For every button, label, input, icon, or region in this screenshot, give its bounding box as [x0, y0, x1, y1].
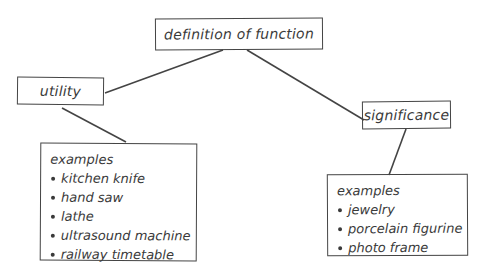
significance-examples-box: examples jewelry porcelain figurine phot…: [327, 174, 468, 257]
example-text: railway timetable: [61, 245, 174, 265]
example-text: ultrasound machine: [61, 226, 191, 246]
examples-heading: examples: [337, 181, 467, 201]
examples-list: jewelry porcelain figurine photo frame: [337, 200, 467, 258]
node-significance: significance: [362, 101, 451, 130]
edge-significance-to-examples: [389, 129, 406, 175]
edge-utility-to-examples: [62, 108, 126, 142]
list-item: lathe: [50, 207, 196, 227]
list-item: ultrasound machine: [50, 226, 196, 246]
edge-root-to-utility: [105, 50, 223, 93]
bullet-icon: [51, 233, 55, 237]
example-text: hand saw: [61, 188, 123, 207]
node-label: definition of function: [164, 25, 314, 42]
example-text: lathe: [61, 207, 94, 226]
list-item: hand saw: [50, 188, 196, 208]
list-item: jewelry: [337, 200, 467, 220]
example-text: porcelain figurine: [348, 219, 462, 239]
bullet-icon: [51, 195, 55, 199]
bullet-icon: [338, 208, 342, 212]
bullet-icon: [51, 214, 55, 218]
node-label: utility: [40, 83, 81, 99]
list-item: kitchen knife: [50, 169, 196, 189]
bullet-icon: [51, 176, 55, 180]
utility-examples-box: examples kitchen knife hand saw lathe ul…: [40, 143, 198, 262]
bullet-icon: [338, 227, 342, 231]
edge-root-to-significance: [247, 50, 364, 120]
node-label: significance: [364, 107, 450, 124]
node-definition-of-function: definition of function: [155, 17, 323, 50]
example-text: jewelry: [348, 200, 395, 219]
example-text: kitchen knife: [61, 169, 145, 188]
bullet-icon: [51, 252, 55, 256]
list-item: photo frame: [337, 238, 467, 258]
example-text: photo frame: [348, 238, 428, 257]
examples-list: kitchen knife hand saw lathe ultrasound …: [50, 169, 196, 265]
list-item: railway timetable: [50, 245, 196, 265]
examples-heading: examples: [50, 150, 196, 170]
node-utility: utility: [17, 77, 104, 106]
bullet-icon: [338, 246, 342, 250]
list-item: porcelain figurine: [337, 219, 467, 239]
